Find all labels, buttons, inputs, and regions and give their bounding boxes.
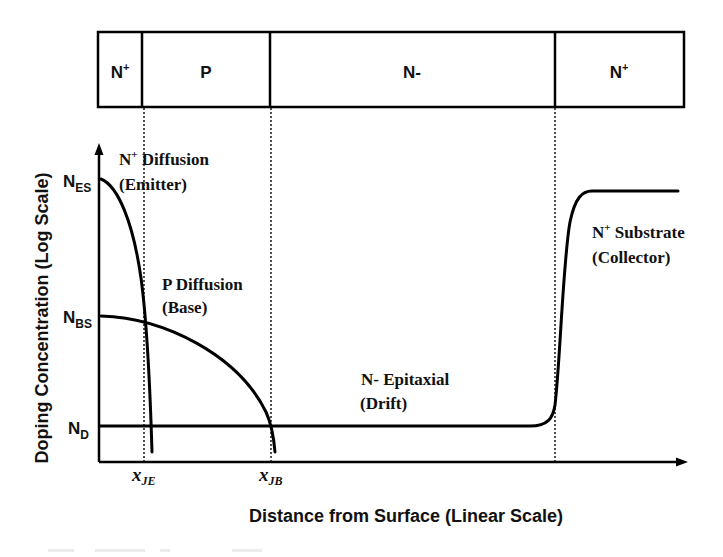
x-tick-xjb: xJB <box>258 464 283 488</box>
region-label-base: P <box>200 63 211 82</box>
annotation-collector-line2: (Collector) <box>592 248 670 267</box>
annotation-collector-line1: N+ Substrate <box>592 221 685 242</box>
doping-profile-diagram: N+ P N- N+ NES NBS ND xJE xJB N+ Diffus <box>0 0 723 557</box>
region-label-drift: N- <box>403 63 421 82</box>
y-tick-nbs: NBS <box>63 308 92 331</box>
annotations: N+ Diffusion (Emitter) P Diffusion (Base… <box>119 148 685 413</box>
x-axis-title: Distance from Surface (Linear Scale) <box>249 506 563 526</box>
annotation-drift-line1: N- Epitaxial <box>361 370 450 389</box>
y-axis-title: Doping Concentration (Log Scale) <box>32 172 52 463</box>
caption-remnant <box>48 549 262 552</box>
region-bar: N+ P N- N+ <box>98 32 684 107</box>
annotation-drift-line2: (Drift) <box>360 394 407 413</box>
x-axis-arrow-icon <box>676 458 688 467</box>
y-tick-nes: NES <box>63 172 91 195</box>
annotation-emitter-line1: N+ Diffusion <box>119 148 209 169</box>
y-tick-nd: ND <box>68 419 89 442</box>
x-tick-xje: xJE <box>131 464 156 488</box>
y-tick-labels: NES NBS ND <box>63 172 92 442</box>
x-tick-labels: xJE xJB <box>131 464 283 488</box>
annotation-emitter-line2: (Emitter) <box>119 175 187 194</box>
annotation-base-line2: (Base) <box>162 298 207 317</box>
annotation-base-line1: P Diffusion <box>162 275 243 294</box>
base-profile-curve <box>101 316 275 452</box>
region-bar-frame <box>98 32 684 107</box>
y-axis-arrow-icon <box>95 143 104 155</box>
